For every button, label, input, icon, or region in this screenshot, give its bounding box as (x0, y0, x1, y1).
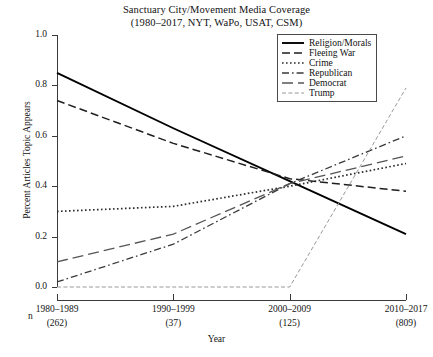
legend-item: Crime (282, 58, 371, 68)
chart-subtitle: (1980–2017, NYT, WaPo, USAT, CSM) (0, 16, 433, 29)
legend-line-icon (282, 78, 304, 88)
legend-label: Democrat (309, 78, 346, 88)
x-axis-tick-count: (125) (235, 318, 345, 328)
legend-item: Fleeing War (282, 48, 371, 58)
legend-item: Religion/Morals (282, 38, 371, 48)
x-axis-tick-label: 2000–2009 (235, 304, 345, 314)
legend-line-icon (282, 58, 304, 68)
chart-title: Sanctuary City/Movement Media Coverage (0, 3, 433, 16)
y-axis-tick-label: 0.0 (7, 281, 47, 291)
x-axis-tick-count: (37) (118, 318, 228, 328)
y-axis-title: Percent Articles Topic Appears (22, 60, 32, 260)
series-line (57, 88, 406, 287)
x-axis-line (57, 300, 406, 301)
series-line (57, 164, 406, 212)
chart-legend: Religion/MoralsFleeing WarCrimeRepublica… (277, 34, 377, 102)
x-axis-tick-count: (262) (2, 318, 112, 328)
chart-title-block: Sanctuary City/Movement Media Coverage (… (0, 3, 433, 29)
legend-label: Trump (309, 88, 335, 98)
legend-label: Religion/Morals (309, 38, 371, 48)
legend-item: Trump (282, 88, 371, 98)
legend-line-icon (282, 88, 304, 98)
legend-label: Fleeing War (309, 48, 355, 58)
x-axis-tick (406, 294, 407, 300)
legend-line-icon (282, 48, 304, 58)
x-axis-tick-label: 1990–1999 (118, 304, 228, 314)
x-axis-tick (173, 294, 174, 300)
x-axis-tick-label: 1980–1989 (2, 304, 112, 314)
legend-label: Republican (309, 68, 352, 78)
y-axis-tick-label: 1.0 (7, 29, 47, 39)
x-axis-tick-count: (809) (351, 318, 433, 328)
legend-label: Crime (309, 58, 333, 68)
x-axis-tick (290, 294, 291, 300)
legend-line-icon (282, 38, 304, 48)
chart-figure: Sanctuary City/Movement Media Coverage (… (0, 0, 433, 357)
legend-item: Republican (282, 68, 371, 78)
y-axis-tick (52, 287, 57, 288)
n-count-label: n (28, 311, 33, 321)
x-axis-tick (57, 294, 58, 300)
legend-line-icon (282, 68, 304, 78)
legend-item: Democrat (282, 78, 371, 88)
x-axis-tick-label: 2010–2017 (351, 304, 433, 314)
x-axis-title: Year (0, 334, 433, 344)
